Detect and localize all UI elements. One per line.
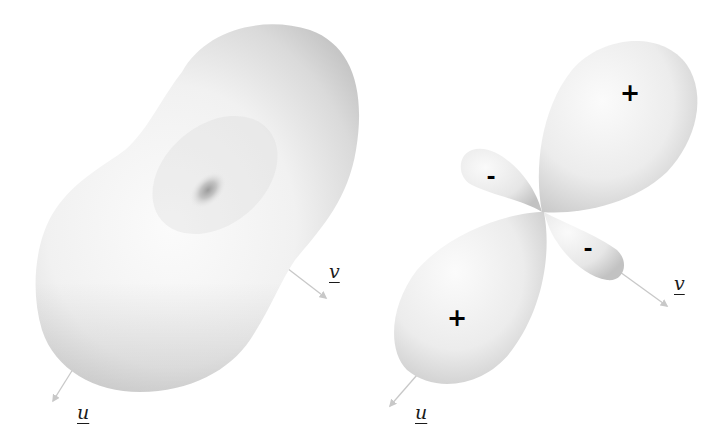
lobed-surface xyxy=(362,0,724,447)
right-panel: + + - - u v xyxy=(362,0,724,447)
v-axis-arrow xyxy=(620,272,667,306)
sign-plus-lower-left: + xyxy=(447,306,467,330)
sign-minus-lower-right: - xyxy=(583,238,592,260)
left-panel: u v xyxy=(0,0,362,447)
lobe-positive-upper-right xyxy=(539,41,698,212)
u-axis-label: u xyxy=(77,403,89,422)
lobe-negative-upper-left xyxy=(461,149,542,212)
v-axis-label: v xyxy=(674,274,685,293)
sign-plus-upper-right: + xyxy=(620,81,640,105)
peanut-surface xyxy=(0,0,362,447)
u-axis-arrow xyxy=(390,375,417,406)
lobe-positive-lower-left xyxy=(394,212,547,384)
u-axis-label: u xyxy=(415,403,427,422)
v-axis-label: v xyxy=(329,262,340,281)
sign-minus-upper-left: - xyxy=(486,166,495,188)
